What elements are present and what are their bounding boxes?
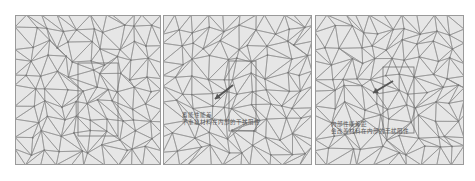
mesh-panel-coarse-interior	[163, 15, 312, 165]
panel-3-annotation-line-2: 会改善材料在内部的干扰阻性	[331, 128, 409, 135]
panel-3-annotation: 内部性能差距 会改善材料在内部的干扰阻性	[331, 121, 409, 135]
triangle-mesh	[163, 15, 312, 165]
panel-2-annotation-line-2: 不重复材料在内部的干扰阻性	[182, 119, 260, 126]
mesh-panel-original	[15, 15, 161, 165]
triangle-mesh	[315, 15, 464, 165]
mesh-panel-refined-interior	[315, 15, 464, 165]
panel-2-annotation: 蓄能性能差 不重复材料在内部的干扰阻性	[182, 112, 260, 126]
triangle-mesh	[15, 15, 161, 165]
panel-2-annotation-line-1: 蓄能性能差	[182, 112, 260, 119]
panel-3-annotation-line-1: 内部性能差距	[331, 121, 409, 128]
